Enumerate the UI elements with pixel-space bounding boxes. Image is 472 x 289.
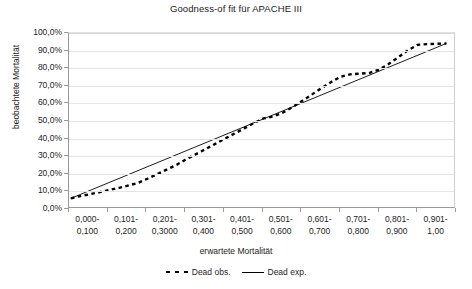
solid-line-swatch xyxy=(242,268,264,276)
x-axis: 0,000-0,1000,101-0,2000,201-0,30000,301-… xyxy=(68,214,455,244)
x-tick-mark xyxy=(262,208,263,212)
chart-legend: Dead obs.Dead exp. xyxy=(0,267,472,277)
x-tick-mark xyxy=(107,208,108,212)
x-tick-mark xyxy=(300,208,301,212)
x-tick-mark xyxy=(184,208,185,212)
x-tick-mark xyxy=(223,208,224,212)
x-tick-label: 0,901-1,00 xyxy=(406,214,466,237)
y-tick-label: 20,0% xyxy=(38,168,62,177)
y-tick-label: 10,0% xyxy=(38,186,62,195)
legend-entry[interactable]: Dead obs. xyxy=(166,267,231,277)
x-tick-label-line: 0,901- xyxy=(406,214,466,226)
plot-area xyxy=(68,32,455,208)
gridline xyxy=(69,191,454,192)
y-tick-label: 70,0% xyxy=(38,80,62,89)
gridline xyxy=(69,33,454,34)
x-tick-mark xyxy=(416,208,417,212)
gridline xyxy=(69,139,454,140)
gridline xyxy=(69,103,454,104)
gridline xyxy=(69,121,454,122)
x-tick-mark xyxy=(378,208,379,212)
y-tick-label: 80,0% xyxy=(38,63,62,72)
gridline xyxy=(69,156,454,157)
series-layer xyxy=(69,33,454,207)
legend-entry[interactable]: Dead exp. xyxy=(242,267,307,277)
chart-title: Goodness-of fit für APACHE III xyxy=(0,3,472,14)
x-tick-mark xyxy=(68,208,69,212)
legend-label: Dead obs. xyxy=(192,267,231,277)
x-tick-mark xyxy=(145,208,146,212)
y-tick-label: 60,0% xyxy=(38,98,62,107)
chart-container: Goodness-of fit für APACHE III 100,0%90,… xyxy=(0,0,472,289)
x-tick-label-line: 1,00 xyxy=(406,226,466,238)
y-tick-label: 50,0% xyxy=(38,116,62,125)
gridline xyxy=(69,51,454,52)
gridline xyxy=(69,68,454,69)
gridline xyxy=(69,86,454,87)
legend-label: Dead exp. xyxy=(268,267,307,277)
y-axis: 100,0%90,0%80,0%70,0%60,0%50,0%40,0%30,0… xyxy=(0,32,66,208)
dashed-line-swatch xyxy=(166,268,188,276)
x-tick-mark xyxy=(339,208,340,212)
gridline xyxy=(69,174,454,175)
x-tick-mark xyxy=(455,208,456,212)
y-tick-label: 0,0% xyxy=(43,204,62,213)
x-axis-title: erwartete Mortalität xyxy=(0,246,472,256)
y-tick-label: 100,0% xyxy=(33,28,62,37)
y-tick-label: 40,0% xyxy=(38,133,62,142)
y-axis-title: beobachtete Mortalität xyxy=(11,24,21,150)
y-tick-label: 30,0% xyxy=(38,151,62,160)
y-tick-label: 90,0% xyxy=(38,45,62,54)
